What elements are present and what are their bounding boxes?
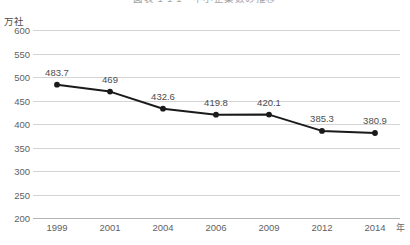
series-marker — [319, 128, 325, 134]
chart-container: 図表 1-1-1 中小企業数の推移 万社 6005505004504003503… — [0, 0, 410, 245]
series-marker — [160, 106, 166, 112]
x-axis-unit-label: 年 — [396, 221, 405, 234]
data-point-label: 420.1 — [257, 97, 281, 108]
data-point-label: 432.6 — [151, 91, 175, 102]
data-point-label: 419.8 — [204, 97, 228, 108]
data-point-label: 385.3 — [310, 113, 334, 124]
series-marker — [372, 130, 378, 136]
series-marker — [54, 82, 60, 88]
series-polyline — [57, 85, 375, 133]
series-marker — [107, 89, 113, 95]
line-series — [0, 0, 410, 245]
series-marker — [213, 112, 219, 118]
data-point-label: 483.7 — [45, 67, 69, 78]
data-point-label: 380.9 — [363, 115, 387, 126]
data-point-label: 469 — [102, 74, 118, 85]
series-marker — [266, 112, 272, 118]
